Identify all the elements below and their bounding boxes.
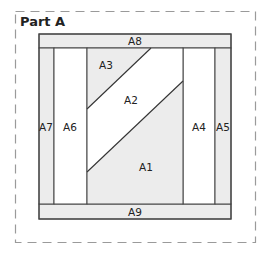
label-a5: A5 [216, 122, 230, 133]
label-a4: A4 [192, 122, 206, 133]
label-a2: A2 [124, 95, 138, 106]
label-a1: A1 [139, 162, 153, 173]
label-a6: A6 [63, 122, 77, 133]
label-a9: A9 [128, 207, 142, 218]
label-a3: A3 [99, 60, 113, 71]
label-a7: A7 [39, 122, 53, 133]
part-title: Part A [20, 15, 65, 28]
label-a8: A8 [128, 36, 142, 47]
